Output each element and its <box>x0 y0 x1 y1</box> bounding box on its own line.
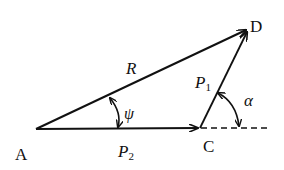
vector-p2-label: P2 <box>117 142 134 162</box>
vector-diagram: A C D R P1 P2 ψ α <box>0 0 284 170</box>
psi-angle-label: ψ <box>124 105 135 123</box>
vector-p1-subscript: 1 <box>205 81 211 93</box>
vector-p2-subscript: 2 <box>128 150 134 162</box>
alpha-angle-label: α <box>244 91 254 110</box>
vector-p1-label: P1 <box>194 73 211 93</box>
vector-p2-letter: P <box>117 142 128 161</box>
vector-r-arrow <box>36 30 246 129</box>
point-a-label: A <box>15 145 28 164</box>
point-c-label: C <box>203 137 214 156</box>
alpha-angle-arc <box>218 93 239 126</box>
vector-p1-letter: P <box>194 73 205 92</box>
vector-p2-arrow <box>36 128 198 129</box>
vector-r-label: R <box>125 59 137 78</box>
point-d-label: D <box>250 17 262 36</box>
vector-p1-arrow <box>200 32 247 128</box>
psi-angle-arc <box>110 98 119 127</box>
